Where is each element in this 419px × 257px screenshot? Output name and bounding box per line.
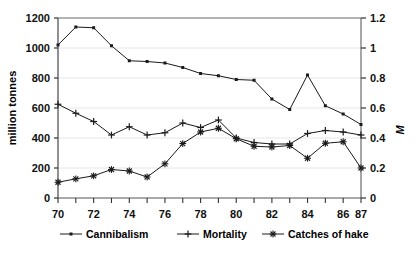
data-point-marker xyxy=(306,74,309,77)
data-point-marker xyxy=(270,98,273,101)
data-point-marker xyxy=(74,26,77,29)
data-point-marker xyxy=(360,123,363,126)
y2-tick-label: 0.2 xyxy=(370,162,385,174)
y2-tick-label: 0.8 xyxy=(370,72,385,84)
data-point-marker xyxy=(324,104,327,107)
data-point-marker xyxy=(128,59,131,62)
y-tick-label: 800 xyxy=(32,72,50,84)
right-axis-title: M xyxy=(394,125,406,135)
y2-tick-label: 0 xyxy=(370,192,376,204)
left-axis-title: million tonnes xyxy=(6,71,18,146)
y-tick-label: 600 xyxy=(32,102,50,114)
y2-tick-label: 1 xyxy=(370,42,376,54)
data-point-marker xyxy=(163,62,166,65)
data-point-marker xyxy=(181,66,184,69)
legend-label: Mortality xyxy=(203,228,247,240)
data-point-marker xyxy=(288,108,291,111)
x-tick-label: 80 xyxy=(230,208,242,220)
x-tick-label: 74 xyxy=(123,208,136,220)
series-cannibalism xyxy=(57,26,363,127)
x-axis-ticks: 70727476788082848687 xyxy=(52,198,367,220)
chart-legend: CannibalismMortalityCatches of hake xyxy=(60,228,369,240)
y2-tick-label: 0.4 xyxy=(370,132,386,144)
x-tick-label: 84 xyxy=(301,208,314,220)
x-tick-label: 86 xyxy=(337,208,349,220)
x-tick-label: 70 xyxy=(52,208,64,220)
left-axis-ticks: 020040060080010001200 xyxy=(26,12,58,204)
x-tick-label: 78 xyxy=(194,208,206,220)
series-line xyxy=(58,27,361,125)
y2-tick-label: 1.2 xyxy=(370,12,385,24)
legend-label: Cannibalism xyxy=(86,228,148,240)
data-point-marker xyxy=(146,60,149,63)
data-point-marker xyxy=(253,79,256,82)
data-point-marker xyxy=(57,44,60,47)
x-tick-label: 72 xyxy=(88,208,100,220)
y-tick-label: 400 xyxy=(32,132,50,144)
data-point-marker xyxy=(217,74,220,77)
data-point-marker xyxy=(199,72,202,75)
data-point-marker xyxy=(110,44,113,47)
y-tick-label: 200 xyxy=(32,162,50,174)
data-point-marker xyxy=(235,78,238,81)
legend-marker-dot xyxy=(70,233,73,236)
x-tick-label: 87 xyxy=(355,208,367,220)
chart-figure: 02004006008001000120000.20.40.60.811.270… xyxy=(0,0,419,257)
data-point-marker xyxy=(92,26,95,29)
legend-label: Catches of hake xyxy=(288,228,369,240)
line-chart: 02004006008001000120000.20.40.60.811.270… xyxy=(0,0,419,257)
data-point-marker xyxy=(342,113,345,116)
x-tick-label: 82 xyxy=(266,208,278,220)
y-tick-label: 0 xyxy=(44,192,50,204)
y-tick-label: 1000 xyxy=(26,42,50,54)
x-tick-label: 76 xyxy=(159,208,171,220)
y2-tick-label: 0.6 xyxy=(370,102,385,114)
grid-lines xyxy=(58,18,361,168)
series-catches-of-hake xyxy=(55,125,365,186)
right-axis-ticks: 00.20.40.60.811.2 xyxy=(361,12,386,204)
series-line xyxy=(58,128,361,182)
y-tick-label: 1200 xyxy=(26,12,50,24)
